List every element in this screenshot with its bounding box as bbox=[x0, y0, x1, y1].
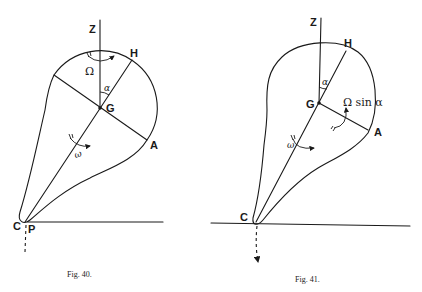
label-omega-small: ω bbox=[287, 140, 295, 150]
label-h: H bbox=[130, 47, 138, 59]
label-g: G bbox=[306, 98, 315, 110]
figure-caption: Fig. 41. bbox=[295, 275, 320, 284]
label-z: Z bbox=[310, 16, 317, 28]
omega-sin-alpha-rotation-arrow-icon bbox=[334, 108, 346, 128]
label-g: G bbox=[106, 102, 115, 114]
figure-caption: Fig. 40. bbox=[67, 270, 92, 279]
label-alpha: α bbox=[104, 83, 110, 93]
center-of-gravity-point bbox=[317, 101, 321, 105]
figure-41: Z H α G Ω sin α A ω C Fig. 41. bbox=[211, 16, 410, 284]
label-omega-sin-alpha: Ω sin α bbox=[343, 96, 383, 109]
label-a: A bbox=[374, 126, 382, 138]
omega-rotation-arrow-icon bbox=[88, 56, 114, 61]
dashed-path bbox=[25, 225, 26, 252]
label-omega-small: ω bbox=[73, 148, 84, 160]
label-c: C bbox=[13, 220, 21, 232]
z-axis bbox=[319, 18, 321, 103]
label-h: H bbox=[344, 37, 352, 49]
center-of-gravity-point bbox=[98, 106, 102, 110]
label-p: P bbox=[28, 223, 35, 235]
label-omega-big: Ω bbox=[85, 65, 94, 78]
body-outline bbox=[253, 43, 376, 225]
label-alpha: α bbox=[322, 77, 328, 87]
label-c: C bbox=[240, 211, 248, 223]
label-a: A bbox=[150, 139, 158, 151]
alpha-angle-arc bbox=[319, 87, 327, 89]
omega-sin-alpha-arrow-tail bbox=[331, 126, 335, 131]
diagram-canvas: Z H Ω α G A ω C P Fig. 40. bbox=[0, 0, 422, 292]
small-omega-rotation-arrow-icon bbox=[293, 139, 314, 148]
small-omega-arrow-tail bbox=[69, 134, 73, 139]
figure-40: Z H Ω α G A ω C P Fig. 40. bbox=[13, 20, 163, 279]
dashed-path-arrow bbox=[256, 226, 258, 262]
ground-line bbox=[211, 223, 410, 226]
symmetry-axis bbox=[25, 60, 132, 222]
label-z: Z bbox=[89, 23, 96, 35]
